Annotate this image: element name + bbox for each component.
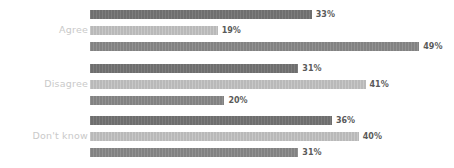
- bar-value-label: 41%: [370, 79, 389, 90]
- category-label-agree: Agree: [0, 24, 88, 35]
- bar-dont-know-series-1: [90, 116, 332, 125]
- bar-disagree-series-2: [90, 80, 366, 89]
- bar-agree-series-2: [90, 26, 218, 35]
- bar-row: 20%: [90, 96, 454, 105]
- bar-dont-know-series-2: [90, 132, 359, 141]
- bar-value-label: 31%: [302, 147, 321, 158]
- bar-chart: Agree 33% 19% 49% Disagree 31%: [0, 0, 454, 168]
- bar-agree-series-1: [90, 10, 312, 19]
- bar-group-agree: Agree 33% 19% 49%: [0, 8, 454, 52]
- bar-row: 41%: [90, 80, 454, 89]
- bar-value-label: 20%: [228, 95, 247, 106]
- bar-value-label: 36%: [336, 115, 355, 126]
- bar-value-label: 31%: [302, 63, 321, 74]
- plot-area: Agree 33% 19% 49% Disagree 31%: [0, 0, 454, 168]
- bar-value-label: 40%: [363, 131, 382, 142]
- category-label-disagree: Disagree: [0, 78, 88, 89]
- bar-value-label: 33%: [316, 9, 335, 20]
- bar-row: 36%: [90, 116, 454, 125]
- bar-disagree-series-3: [90, 96, 224, 105]
- bar-row: 33%: [90, 10, 454, 19]
- bar-disagree-series-1: [90, 64, 298, 73]
- bar-row: 19%: [90, 26, 454, 35]
- bar-row: 31%: [90, 148, 454, 157]
- category-label-dont-know: Don't know: [0, 130, 88, 141]
- bar-value-label: 19%: [222, 25, 241, 36]
- bar-value-label: 49%: [423, 41, 442, 52]
- bar-row: 40%: [90, 132, 454, 141]
- bar-group-disagree: Disagree 31% 41% 20%: [0, 62, 454, 106]
- bar-dont-know-series-3: [90, 148, 298, 157]
- bar-row: 49%: [90, 42, 454, 51]
- bar-agree-series-3: [90, 42, 419, 51]
- bar-row: 31%: [90, 64, 454, 73]
- bar-group-dont-know: Don't know 36% 40% 31%: [0, 114, 454, 158]
